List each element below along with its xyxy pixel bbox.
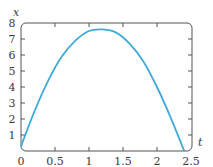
x-tick-label: 0 — [18, 155, 25, 167]
y-axis-ticks: 12345678 — [9, 17, 193, 142]
x-tick-label: 2 — [154, 155, 161, 167]
x-axis-ticks: 00.511.522.5 — [18, 23, 200, 167]
y-tick-label: 4 — [9, 81, 16, 94]
plot-frame — [21, 23, 192, 151]
y-axis-label: x — [13, 6, 20, 19]
x-tick-label: 1.5 — [114, 155, 132, 167]
y-tick-label: 3 — [9, 97, 16, 110]
y-tick-label: 2 — [9, 113, 16, 126]
data-curve — [21, 29, 184, 151]
y-tick-label: 1 — [9, 129, 16, 142]
x-tick-label: 0.5 — [46, 155, 64, 167]
x-tick-label: 1 — [86, 155, 93, 167]
chart: 00.511.522.5 12345678 x t — [0, 0, 213, 167]
y-tick-label: 6 — [9, 49, 16, 62]
x-tick-label: 2.5 — [182, 155, 200, 167]
y-tick-label: 5 — [9, 65, 16, 78]
x-axis-label: t — [198, 136, 203, 149]
y-tick-label: 7 — [9, 33, 16, 46]
